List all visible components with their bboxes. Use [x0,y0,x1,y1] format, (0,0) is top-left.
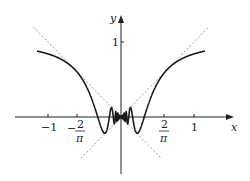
svg-text:2: 2 [77,118,84,131]
svg-text:2: 2 [161,118,168,131]
x-tick-label-neg1: −1 [41,121,57,134]
svg-text:−: − [67,122,76,135]
svg-text:π: π [159,132,168,145]
x-axis-arrow-icon [226,114,234,120]
x-tick-label-2-over-pi: 2 π [159,118,169,145]
y-axis-label: y [109,12,117,25]
x-axis-label: x [231,121,238,134]
line-y-equals-x [81,27,209,158]
y-tick-label-1: 1 [112,36,119,49]
svg-text:π: π [75,132,84,145]
line-y-equals-neg-x [33,27,161,158]
function-plot: y x 1 −1 1 − 2 π 2 π [0,0,250,181]
x-tick-label-neg-2-over-pi: − 2 π [67,118,85,145]
chart-container: y x 1 −1 1 − 2 π 2 π [0,0,250,181]
x-tick-label-1: 1 [191,121,198,134]
y-axis-arrow-icon [118,15,124,23]
